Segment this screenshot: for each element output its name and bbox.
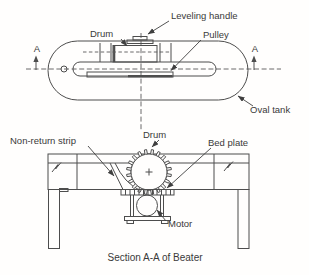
oval-tank-outline bbox=[48, 41, 248, 100]
section-arrow-right-head bbox=[251, 56, 256, 63]
drum-section-label: Drum bbox=[143, 129, 166, 140]
drawing-caption: Section A-A of Beater bbox=[107, 252, 203, 263]
table-leg-right bbox=[238, 190, 249, 249]
section-letter-left: A bbox=[34, 43, 41, 54]
motor-body bbox=[137, 195, 158, 216]
pulley-label: Pulley bbox=[203, 29, 229, 40]
drum-plan-leader bbox=[121, 39, 127, 46]
break-mark-left bbox=[52, 163, 61, 173]
oval-tank-label: Oval tank bbox=[250, 104, 290, 115]
leveling-handle-label: Leveling handle bbox=[171, 10, 238, 21]
motor-frame bbox=[125, 195, 171, 224]
leveling-handle-leader bbox=[148, 21, 169, 34]
bed-plate-label: Bed plate bbox=[208, 137, 248, 148]
drum-plan-outline bbox=[113, 46, 157, 63]
pulley-leader bbox=[171, 40, 201, 71]
drum-section-leader bbox=[152, 140, 159, 147]
non-return-strip-label: Non-return strip bbox=[10, 135, 76, 146]
beater-technical-drawing: A A Leveling handle Drum Pulley Oval tan… bbox=[0, 0, 309, 275]
motor-leader bbox=[157, 210, 166, 221]
leveling-handle-top bbox=[133, 37, 147, 41]
non-return-strip-leader bbox=[88, 146, 114, 176]
table-leg-left bbox=[49, 190, 60, 249]
section-letter-right: A bbox=[252, 43, 259, 54]
drum-plan-label: Drum bbox=[90, 28, 113, 39]
bed-plate-rack-teeth bbox=[126, 190, 171, 196]
drawing-canvas: A A Leveling handle Drum Pulley Oval tan… bbox=[0, 0, 309, 275]
motor-label: Motor bbox=[168, 218, 192, 229]
section-arrow-left-head bbox=[33, 56, 38, 63]
